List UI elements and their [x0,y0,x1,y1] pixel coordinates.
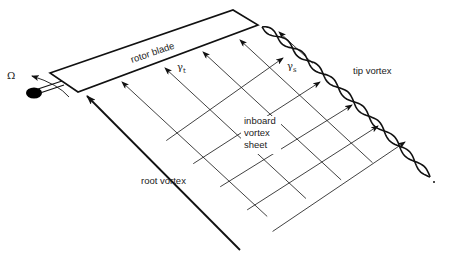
shed-vortex-line [220,105,352,187]
root-vortex-label: root vortex [141,175,186,186]
tip-vortex-label: tip vortex [353,65,392,76]
omega-label: Ω [7,70,15,81]
tip-vortex [262,27,435,183]
vortex-wake-diagram: Ω rotor blade γt γs tip vortex inboard v… [0,0,457,263]
tip-vortex-strand [262,27,430,177]
inboard-line-1: inboard [244,115,276,126]
root-vortex-line [87,96,240,250]
gamma-t-subscript: t [183,67,186,75]
tip-vortex-end-dot [433,181,435,183]
shed-vortex-line [273,142,405,231]
inboard-line-2: vortex [244,127,270,138]
shed-vortex-lines [166,58,405,231]
inboard-line-3: sheet [244,139,268,150]
trailed-vortex-line [165,68,306,199]
gamma-t-label: γt [177,61,186,75]
gamma-s-subscript: s [293,66,297,74]
gamma-s-label: γs [287,60,297,74]
tip-vortex-strand [262,27,430,177]
